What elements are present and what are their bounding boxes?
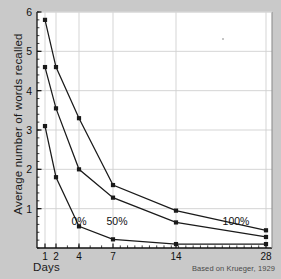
- series-label-0pct: 0%: [71, 215, 86, 227]
- data-point: [264, 228, 268, 232]
- data-point: [264, 235, 268, 239]
- data-point: [54, 65, 58, 69]
- data-point: [43, 18, 47, 22]
- data-point: [54, 106, 58, 110]
- line-chart-plot: [0, 0, 281, 279]
- chart-figure: Average number of words recalled Days Ba…: [0, 0, 281, 279]
- data-point: [174, 209, 178, 213]
- x-tick-label: 7: [110, 251, 116, 262]
- data-point: [174, 242, 178, 246]
- y-tick-label: 6: [16, 6, 32, 18]
- x-tick-label: 4: [76, 251, 82, 262]
- data-point: [111, 237, 115, 241]
- series-label-50pct: 50%: [106, 215, 127, 227]
- scan-artifact-speck: [222, 38, 224, 40]
- y-tick-label: 5: [16, 45, 32, 57]
- data-point: [264, 242, 268, 246]
- data-point: [43, 124, 47, 128]
- data-point: [77, 167, 81, 171]
- series-label-100pct: 100%: [223, 215, 250, 227]
- source-attribution: Based on Krueger, 1929: [192, 264, 275, 273]
- y-tick-label: 1: [16, 203, 32, 215]
- data-point: [111, 183, 115, 187]
- y-tick-label: 4: [16, 85, 32, 97]
- y-tick-label: 2: [16, 163, 32, 175]
- data-point: [43, 65, 47, 69]
- x-tick-label: 28: [260, 251, 271, 262]
- data-point: [54, 175, 58, 179]
- data-point: [77, 116, 81, 120]
- data-point: [174, 220, 178, 224]
- x-tick-label: 2: [53, 251, 59, 262]
- x-tick-label: 1: [42, 251, 48, 262]
- x-axis-label: Days: [33, 261, 60, 273]
- x-tick-label: 14: [170, 251, 181, 262]
- data-point: [111, 196, 115, 200]
- y-tick-label: 3: [16, 124, 32, 136]
